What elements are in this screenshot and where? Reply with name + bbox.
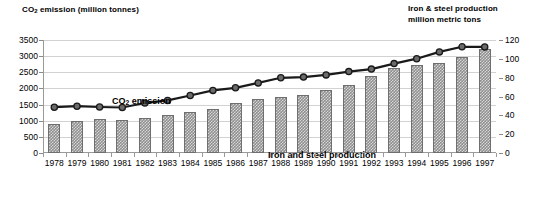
- data-point-marker: [74, 103, 80, 109]
- x-axis-tick-mark: [405, 153, 406, 157]
- left-axis-tick-label: 3000: [19, 51, 38, 61]
- series-annotation-co2-emission: CO2 emission: [112, 96, 171, 106]
- x-axis-tick-mark: [360, 153, 361, 157]
- line-series-co2-emission: [43, 40, 496, 153]
- x-axis-tick-mark: [247, 153, 248, 157]
- x-axis-tick-mark: [270, 153, 271, 157]
- x-axis-tick-mark: [428, 153, 429, 157]
- x-axis-tick-mark: [43, 153, 44, 157]
- data-point-marker: [300, 74, 306, 80]
- data-point-marker: [459, 44, 465, 50]
- x-axis-tick-mark: [156, 153, 157, 157]
- right-axis-tick-label: 100: [505, 54, 519, 64]
- data-point-marker: [187, 92, 193, 98]
- right-axis-tick-mark: [499, 153, 503, 154]
- right-axis-tick-mark: [499, 115, 503, 116]
- right-axis-tick-mark: [499, 40, 503, 41]
- right-axis-tick-label: 0: [505, 148, 510, 158]
- left-axis-tick-label: 1500: [19, 100, 38, 110]
- x-axis-tick-mark: [224, 153, 225, 157]
- data-point-marker: [51, 104, 57, 110]
- left-axis-title: CO2 emission (million tonnes): [22, 5, 139, 14]
- chart-container: CO2 emission (million tonnes) Iron & ste…: [0, 0, 541, 207]
- x-axis-tick-mark: [496, 153, 497, 157]
- left-axis-tick-label: 3500: [19, 35, 38, 45]
- x-axis-tick-mark: [292, 153, 293, 157]
- data-point-marker: [255, 80, 261, 86]
- right-axis-tick-label: 60: [505, 92, 514, 102]
- x-axis-tick-mark: [111, 153, 112, 157]
- right-axis-title-line2: million metric tons: [408, 14, 498, 25]
- x-axis-tick-mark: [473, 153, 474, 157]
- data-point-marker: [391, 61, 397, 67]
- left-axis-tick-label: 0: [33, 148, 38, 158]
- data-point-marker: [414, 56, 420, 62]
- data-point-marker: [323, 72, 329, 78]
- data-point-marker: [278, 75, 284, 81]
- x-axis-tick-mark: [134, 153, 135, 157]
- right-axis-tick-label: 40: [505, 110, 514, 120]
- left-axis-tick-label: 1000: [19, 116, 38, 126]
- right-axis-tick-label: 20: [505, 129, 514, 139]
- x-axis-tick-label: 1997: [471, 158, 499, 168]
- data-point-marker: [232, 85, 238, 91]
- right-axis-ticks: 020406080100120: [499, 40, 533, 153]
- data-point-marker: [346, 69, 352, 75]
- x-axis-tick-mark: [202, 153, 203, 157]
- data-point-marker: [97, 104, 103, 110]
- right-axis-tick-mark: [499, 78, 503, 79]
- left-axis-tick-label: 2500: [19, 67, 38, 77]
- data-point-marker: [482, 44, 488, 50]
- x-axis-tick-mark: [315, 153, 316, 157]
- data-point-marker: [368, 66, 374, 72]
- x-axis-tick-labels: 1978197919801981198219831984198519861987…: [43, 158, 496, 178]
- x-axis-tick-mark: [337, 153, 338, 157]
- right-axis-title-line1: Iron & steel production: [408, 3, 498, 14]
- left-axis-tick-label: 500: [24, 132, 38, 142]
- right-axis-tick-label: 80: [505, 73, 514, 83]
- plot-area: [43, 40, 496, 153]
- data-point-marker: [436, 49, 442, 55]
- x-axis-tick-mark: [66, 153, 67, 157]
- right-axis-tick-mark: [499, 97, 503, 98]
- right-axis-tick-mark: [499, 134, 503, 135]
- left-axis-tick-label: 2000: [19, 83, 38, 93]
- right-axis-tick-mark: [499, 59, 503, 60]
- x-axis-tick-mark: [383, 153, 384, 157]
- right-axis-title: Iron & steel production million metric t…: [408, 3, 498, 25]
- x-axis-tick-mark: [88, 153, 89, 157]
- left-axis-ticks: 0500100015002000250030003500: [0, 40, 38, 153]
- x-axis-tick-mark: [451, 153, 452, 157]
- x-axis-tick-mark: [179, 153, 180, 157]
- right-axis-tick-label: 120: [505, 35, 519, 45]
- data-point-marker: [210, 87, 216, 93]
